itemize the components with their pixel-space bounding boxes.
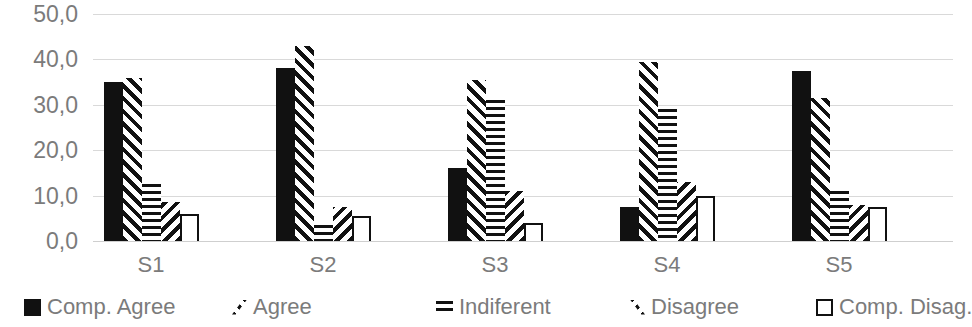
- bar-s3-agree: [467, 80, 486, 241]
- bar-s4-disagree: [677, 182, 696, 241]
- bar-s5-agree: [811, 98, 830, 241]
- y-axis: 0,010,020,030,040,050,0: [0, 0, 88, 260]
- legend-item-comp-agree[interactable]: Comp. Agree: [24, 296, 175, 318]
- x-axis-label-s1: S1: [138, 252, 165, 278]
- bar-groups: [93, 14, 953, 241]
- solid-square-icon: [24, 299, 41, 316]
- legend-label: Agree: [253, 296, 312, 318]
- bar-s1-comp-disag: [180, 214, 199, 241]
- bar-s5-indiferent: [830, 191, 849, 241]
- bar-s3-comp-disag: [524, 223, 543, 241]
- y-axis-tick-label: 20,0: [33, 139, 78, 162]
- horizontal-lines-icon: [436, 301, 453, 314]
- legend-label: Disagree: [651, 296, 739, 318]
- y-axis-tick-label: 0,0: [46, 230, 78, 253]
- bar-group-s4: [620, 14, 715, 241]
- bar-group-s2: [276, 14, 371, 241]
- bar-s3-disagree: [505, 191, 524, 241]
- bar-s1-agree: [123, 78, 142, 241]
- legend-label: Comp. Agree: [47, 296, 175, 318]
- forward-diagonal-icon: [232, 300, 247, 315]
- x-axis-label-s2: S2: [310, 252, 337, 278]
- bar-s1-indiferent: [142, 184, 161, 241]
- plot-area: [93, 14, 953, 241]
- bar-s2-indiferent: [314, 225, 333, 241]
- y-axis-tick-label: 40,0: [33, 48, 78, 71]
- bar-s4-comp-disag: [696, 196, 715, 241]
- bar-s5-comp-agree: [792, 71, 811, 241]
- bar-group-s5: [792, 14, 887, 241]
- bar-group-s3: [448, 14, 543, 241]
- bar-s2-disagree: [333, 207, 352, 241]
- bar-s4-agree: [639, 62, 658, 241]
- legend-label: Indiferent: [459, 296, 551, 318]
- legend-item-indiferent[interactable]: Indiferent: [436, 296, 551, 318]
- chart-legend: Comp. AgreeAgreeIndiferentDisagreeComp. …: [0, 296, 968, 327]
- legend-label: Comp. Disag.: [839, 296, 972, 318]
- bar-s2-comp-agree: [276, 68, 295, 241]
- y-axis-tick-label: 30,0: [33, 93, 78, 116]
- bar-s3-indiferent: [486, 100, 505, 241]
- x-axis-label-s5: S5: [826, 252, 853, 278]
- bar-s2-agree: [295, 46, 314, 241]
- legend-item-comp-disag[interactable]: Comp. Disag.: [816, 296, 972, 318]
- y-axis-tick-label: 10,0: [33, 184, 78, 207]
- bar-s2-comp-disag: [352, 216, 371, 241]
- bar-group-s1: [104, 14, 199, 241]
- hollow-square-icon: [816, 299, 833, 316]
- bar-s3-comp-agree: [448, 168, 467, 241]
- bar-s4-comp-agree: [620, 207, 639, 241]
- bar-s5-disagree: [849, 205, 868, 241]
- x-axis: S1S2S3S4S5: [93, 252, 953, 282]
- bar-s1-comp-agree: [104, 82, 123, 241]
- legend-item-agree[interactable]: Agree: [232, 296, 312, 318]
- x-axis-label-s3: S3: [482, 252, 509, 278]
- bar-s5-comp-disag: [868, 207, 887, 241]
- x-axis-label-s4: S4: [654, 252, 681, 278]
- bar-s4-indiferent: [658, 109, 677, 241]
- backward-diagonal-icon: [630, 300, 645, 315]
- legend-item-disagree[interactable]: Disagree: [630, 296, 739, 318]
- axis-baseline: [93, 241, 953, 242]
- bar-s1-disagree: [161, 202, 180, 241]
- y-axis-tick-label: 50,0: [33, 3, 78, 26]
